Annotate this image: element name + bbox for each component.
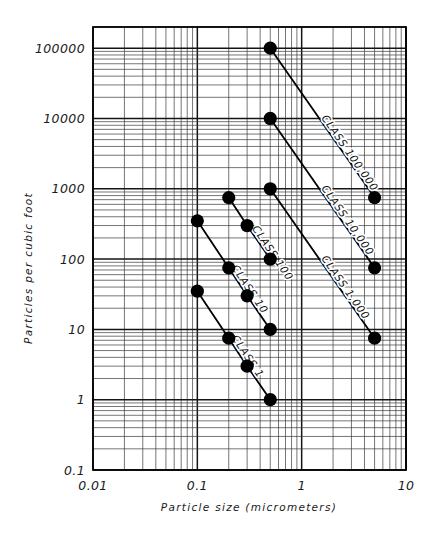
data-point: [264, 252, 277, 265]
data-point: [241, 289, 254, 302]
y-tick-label: 0.1: [64, 463, 85, 478]
data-point: [264, 323, 277, 336]
data-point: [222, 332, 235, 345]
y-tick-label: 1000: [52, 181, 85, 196]
y-tick-label: 100000: [35, 41, 85, 56]
x-tick-label: 10: [398, 478, 415, 493]
log-log-chart: CLASS 100,000CLASS 100,000CLASS 10,000CL…: [0, 0, 429, 533]
x-tick-label: 0.01: [78, 478, 107, 493]
data-point: [368, 191, 381, 204]
y-tick-label: 10: [68, 322, 85, 337]
x-tick-label: 1: [297, 478, 305, 493]
y-axis-title: Particles per cubic foot: [22, 192, 34, 344]
data-point: [264, 42, 277, 55]
y-tick-label: 10000: [43, 111, 85, 126]
data-point: [264, 182, 277, 195]
chart-figure: CLASS 100,000CLASS 100,000CLASS 10,000CL…: [0, 0, 429, 533]
data-point: [241, 219, 254, 232]
data-point: [264, 393, 277, 406]
data-point: [241, 360, 254, 373]
x-tick-label: 0.1: [187, 478, 208, 493]
y-tick-label: 100: [60, 252, 85, 267]
data-point: [368, 332, 381, 345]
data-point: [222, 261, 235, 274]
y-tick-label: 1: [77, 392, 85, 407]
data-point: [191, 285, 204, 298]
data-point: [222, 191, 235, 204]
data-point: [368, 261, 381, 274]
data-point: [191, 214, 204, 227]
x-axis-title: Particle size (micrometers): [161, 501, 337, 513]
data-point: [264, 112, 277, 125]
